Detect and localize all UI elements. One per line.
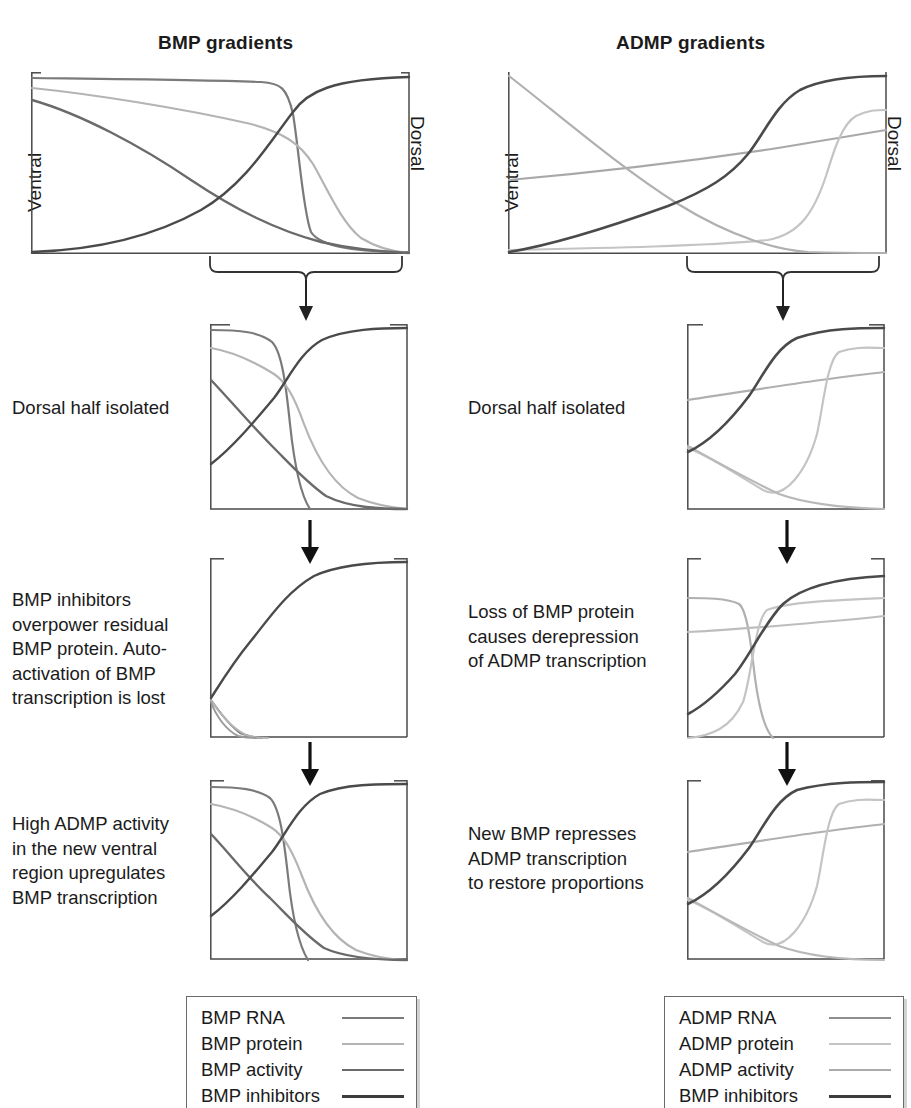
- note-left-inhibitors-overpower: BMP inhibitors overpower residual BMP pr…: [12, 588, 208, 711]
- axes-frame: [211, 558, 407, 737]
- series-bmp-inhibitors: [688, 576, 884, 714]
- legend-swatch-bmp-protein: [342, 1043, 404, 1045]
- chart-bmp-row1-svg: [31, 72, 410, 254]
- series-admp-rna: [688, 598, 773, 738]
- series-bmp-activity: [211, 702, 256, 738]
- legend-label: BMP protein: [201, 1033, 302, 1055]
- series-bmp-inhibitors: [211, 562, 407, 698]
- series-bmp-rna: [211, 330, 310, 509]
- figure-root: BMP gradients ADMP gradients Ventral Dor…: [0, 0, 911, 1108]
- chart-admp-row2: [687, 324, 885, 510]
- axes-frame: [688, 780, 884, 959]
- legend-swatch-bmp-activity: [342, 1069, 404, 1071]
- series-bmp-rna: [211, 787, 308, 960]
- legend-item: ADMP protein: [679, 1031, 891, 1057]
- chart-admp-row4-svg: [687, 780, 885, 960]
- series-admp-activity: [688, 446, 884, 509]
- axes-frame: [211, 780, 407, 959]
- legend-label: BMP inhibitors: [679, 1085, 798, 1107]
- chart-bmp-row2-svg: [210, 324, 408, 510]
- note-right-new-bmp: New BMP represses ADMP transcription to …: [468, 822, 684, 896]
- axes-frame: [688, 558, 884, 737]
- series-bmp-protein: [32, 88, 409, 253]
- axes-frame: [32, 72, 409, 253]
- series-admp-rna: [688, 824, 884, 852]
- chart-bmp-row4-svg: [210, 780, 408, 960]
- legend-item: BMP RNA: [201, 1005, 404, 1031]
- series-admp-protein: [509, 110, 886, 250]
- legend-label: BMP RNA: [201, 1007, 285, 1029]
- legend-swatch-bmp-rna: [342, 1017, 404, 1019]
- series-bmp-inhibitors: [32, 77, 409, 252]
- series-admp-protein: [688, 616, 884, 632]
- chart-bmp-row3-svg: [210, 558, 408, 738]
- column-title-admp: ADMP gradients: [616, 32, 765, 54]
- legend-item: BMP protein: [201, 1031, 404, 1057]
- legend-item: BMP inhibitors: [679, 1083, 891, 1108]
- chart-bmp-row2: [210, 324, 408, 510]
- chart-admp-row3-svg: [687, 558, 885, 738]
- chart-admp-row1-svg: [508, 72, 887, 254]
- legend-label: ADMP activity: [679, 1059, 794, 1081]
- note-right-loss-of-bmp: Loss of BMP protein causes derepression …: [468, 600, 680, 674]
- chart-bmp-row1: [31, 72, 410, 254]
- legend-swatch-bmp-inhibitors: [829, 1095, 891, 1098]
- legend-item: ADMP activity: [679, 1057, 891, 1083]
- legend-swatch-admp-activity: [829, 1069, 891, 1071]
- series-admp-protein: [688, 800, 884, 945]
- chart-admp-row3: [687, 558, 885, 738]
- series-bmp-activity: [211, 834, 407, 960]
- legend-swatch-admp-protein: [829, 1043, 891, 1045]
- legend-item: BMP activity: [201, 1057, 404, 1083]
- legend-label: ADMP protein: [679, 1033, 794, 1055]
- chart-bmp-row4: [210, 780, 408, 960]
- bmp-legend: BMP RNA BMP protein BMP activity BMP inh…: [186, 996, 417, 1108]
- series-admp-rna: [509, 130, 886, 180]
- series-admp-rna: [688, 372, 884, 400]
- series-bmp-protein: [211, 348, 407, 509]
- legend-swatch-bmp-inhibitors: [342, 1095, 404, 1098]
- chart-admp-row2-svg: [687, 324, 885, 510]
- chart-admp-row1: [508, 72, 887, 254]
- legend-label: ADMP RNA: [679, 1007, 776, 1029]
- legend-item: ADMP RNA: [679, 1005, 891, 1031]
- series-bmp-rna: [32, 78, 409, 252]
- connector-brace-right-1: [677, 253, 897, 321]
- legend-label: BMP activity: [201, 1059, 302, 1081]
- admp-legend: ADMP RNA ADMP protein ADMP activity BMP …: [664, 996, 904, 1108]
- legend-swatch-admp-rna: [829, 1017, 891, 1019]
- note-left-high-admp: High ADMP activity in the new ventral re…: [12, 812, 212, 910]
- note-right-dorsal-half: Dorsal half isolated: [468, 396, 678, 421]
- series-admp-protein: [688, 348, 884, 493]
- series-admp-activity: [688, 898, 884, 960]
- column-title-bmp: BMP gradients: [158, 32, 293, 54]
- series-bmp-inhibitors: [688, 328, 884, 452]
- series-bmp-inhibitors: [211, 328, 407, 464]
- chart-bmp-row3: [210, 558, 408, 738]
- connector-brace-left-1: [200, 253, 420, 321]
- series-bmp-activity: [211, 380, 407, 509]
- legend-label: BMP inhibitors: [201, 1085, 320, 1107]
- axes-frame: [688, 324, 884, 509]
- chart-admp-row4: [687, 780, 885, 960]
- series-bmp-inhibitors: [211, 784, 407, 916]
- note-left-dorsal-half: Dorsal half isolated: [12, 396, 202, 421]
- legend-item: BMP inhibitors: [201, 1083, 404, 1108]
